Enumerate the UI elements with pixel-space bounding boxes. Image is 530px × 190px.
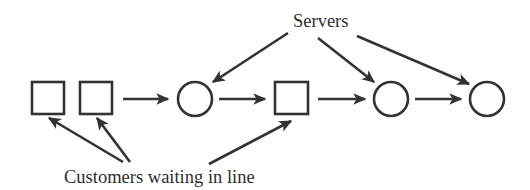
- queueing-diagram: Servers Customers waiting in line: [0, 0, 530, 190]
- customers-pointer-arrow-3: [209, 121, 291, 164]
- servers-label: Servers: [293, 11, 348, 31]
- customer-square-2: [80, 82, 112, 114]
- servers-pointer-arrow-1: [213, 33, 288, 82]
- customer-square-3: [275, 82, 308, 114]
- servers-pointer-arrow-2: [318, 38, 374, 82]
- server-circle-2: [374, 82, 408, 116]
- customers-waiting-label: Customers waiting in line: [64, 167, 255, 187]
- server-circle-1: [178, 82, 212, 116]
- customer-square-1: [32, 82, 64, 114]
- servers-pointer-arrow-3: [357, 36, 469, 84]
- server-circle-3: [470, 82, 504, 116]
